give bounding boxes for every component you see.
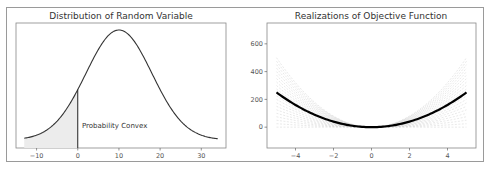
right-axes-box	[267, 23, 476, 148]
realization-curve	[277, 68, 467, 127]
realization-curve	[277, 113, 467, 127]
realization-curves	[277, 58, 467, 127]
right-chart-title: Realizations of Objective Function	[295, 11, 447, 21]
left-x-ticks: −100102030	[30, 148, 206, 160]
realization-curve	[277, 96, 467, 127]
x-tick-label: 2	[407, 152, 411, 160]
realization-curve	[277, 89, 467, 127]
left-chart-title: Distribution of Random Variable	[49, 11, 193, 21]
x-tick-label: 0	[369, 152, 373, 160]
x-tick-label: −4	[291, 152, 301, 160]
realization-curve	[277, 99, 467, 127]
x-tick-label: 10	[115, 152, 123, 160]
probability-shaded-area	[24, 90, 78, 148]
realization-curve	[277, 79, 467, 128]
realization-curve	[277, 75, 467, 127]
x-tick-label: 4	[445, 152, 449, 160]
realization-curve	[277, 110, 467, 127]
left-chart: Distribution of Random Variable Probabil…	[16, 11, 226, 160]
right-x-ticks: −4−2024	[291, 148, 450, 160]
y-tick-label: 600	[251, 40, 263, 48]
y-tick-label: 0	[259, 123, 263, 131]
y-tick-label: 400	[251, 68, 263, 76]
realization-curve	[277, 86, 467, 128]
x-tick-label: 20	[156, 152, 164, 160]
x-tick-label: 30	[197, 152, 205, 160]
x-tick-label: 0	[76, 152, 80, 160]
right-chart: Realizations of Objective Function −4−20…	[251, 11, 476, 160]
right-y-ticks: 0200400600	[251, 40, 267, 131]
x-tick-label: −10	[30, 152, 44, 160]
x-tick-label: −2	[329, 152, 339, 160]
figure-canvas: Distribution of Random Variable Probabil…	[0, 0, 489, 169]
realization-curve	[277, 65, 467, 128]
y-tick-label: 200	[251, 96, 263, 104]
probability-convex-label: Probability Convex	[82, 122, 147, 130]
